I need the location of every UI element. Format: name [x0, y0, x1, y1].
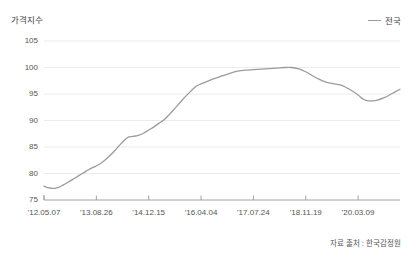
- x-tick-label-3: '16.04.04: [185, 209, 218, 217]
- x-tick-label-6: '20.03.09: [342, 209, 375, 217]
- x-tick-label-5: '18.11.19: [290, 209, 322, 217]
- source-note: 자료 출처 : 한국감정원: [330, 237, 401, 248]
- x-tick-label-2: '14.12.15: [132, 209, 165, 217]
- x-tick-marks: [44, 196, 358, 201]
- x-tick-label-0: '12.05.07: [28, 209, 61, 217]
- y-tick-label-85: 85: [12, 143, 38, 151]
- y-tick-label-80: 80: [12, 170, 38, 178]
- y-tick-label-105: 105: [12, 37, 38, 45]
- y-tick-label-95: 95: [12, 90, 38, 98]
- series-line-nationwide: [44, 67, 400, 188]
- price-index-line-chart: 가격지수 전국 7580859095100105 '12.05.07'13.08…: [0, 0, 409, 255]
- gridlines: [44, 41, 400, 200]
- y-tick-label-100: 100: [12, 64, 38, 72]
- x-tick-label-1: '13.08.26: [80, 209, 113, 217]
- y-tick-label-75: 75: [12, 196, 38, 204]
- x-tick-label-4: '17.07.24: [237, 209, 270, 217]
- y-tick-label-90: 90: [12, 117, 38, 125]
